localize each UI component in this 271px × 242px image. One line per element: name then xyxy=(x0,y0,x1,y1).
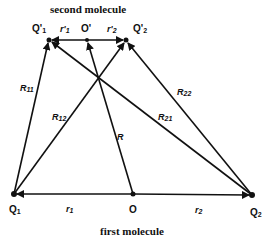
label-Q2: Q2 xyxy=(250,208,262,218)
point-Q2 xyxy=(249,192,255,198)
label-r2-prime: r'2 xyxy=(107,25,117,34)
first-molecule-title: first molecule xyxy=(100,226,164,237)
label-R11: R11 xyxy=(20,84,34,93)
second-molecule-title: second molecule xyxy=(50,4,126,15)
point-Q2-prime xyxy=(124,38,129,43)
label-Q2-prime: Q'2 xyxy=(133,24,147,34)
point-Q1 xyxy=(11,191,17,197)
vector-r2 xyxy=(133,194,249,195)
label-r1: r1 xyxy=(66,205,73,214)
vector-R22 xyxy=(128,43,252,195)
label-R22: R22 xyxy=(177,88,191,97)
label-r2: r2 xyxy=(195,206,202,215)
point-Q1-prime xyxy=(47,38,52,43)
point-O xyxy=(131,192,136,197)
vector-R21 xyxy=(52,42,252,195)
label-O: O xyxy=(129,205,137,215)
label-Q1: Q1 xyxy=(9,205,21,215)
point-O-prime xyxy=(85,38,89,42)
label-R12: R12 xyxy=(52,113,66,122)
label-r1-prime: r'1 xyxy=(60,25,70,34)
vector-R xyxy=(88,43,133,194)
label-R21: R21 xyxy=(158,113,172,122)
label-Q1-prime: Q'1 xyxy=(32,24,46,34)
label-R: R xyxy=(117,133,124,142)
label-O-prime: O' xyxy=(81,24,91,34)
